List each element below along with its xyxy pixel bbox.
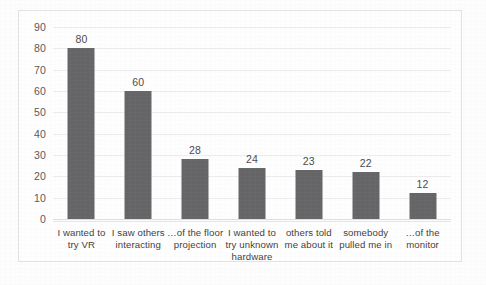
category-axis-rule [53,221,451,222]
x-axis-category-label: …of the monitor [394,227,451,251]
bar-slot: 12 [394,27,451,219]
y-axis-tick-label: 80 [34,42,46,54]
y-axis-tick-label: 40 [34,128,46,140]
bar[interactable] [182,159,209,219]
x-axis-category-label: others told me about it [280,227,337,251]
bar-slot: 24 [224,27,281,219]
bar-value-label: 23 [303,155,315,167]
y-axis-tick-label: 50 [34,106,46,118]
y-axis-tick-label: 10 [34,192,46,204]
bar[interactable] [238,168,265,219]
bar-slot: 80 [53,27,110,219]
bar-slot: 28 [167,27,224,219]
plot-area: 0102030405060708090 80602824232212 [53,27,451,219]
bar-value-label: 60 [132,76,144,88]
y-axis-tick-label: 0 [40,213,46,225]
bar-value-label: 22 [360,157,372,169]
bar-value-label: 80 [75,33,87,45]
bar[interactable] [295,170,322,219]
bar-value-label: 28 [189,144,201,156]
x-axis-category-label: I wanted to try unknown hardware [224,227,281,264]
scanned-page: 0102030405060708090 80602824232212 I wan… [0,0,486,285]
gridline [53,219,451,220]
bar-slot: 22 [337,27,394,219]
bar[interactable] [409,193,436,219]
bar-value-label: 24 [246,153,258,165]
bar-slot: 23 [280,27,337,219]
chart-frame: 0102030405060708090 80602824232212 I wan… [18,10,462,262]
bar[interactable] [352,172,379,219]
y-axis-tick-label: 90 [34,21,46,33]
bar-value-label: 12 [417,178,429,190]
x-axis-category-label: I wanted to try VR [53,227,110,251]
x-axis-category-label: …of the floor projection [167,227,224,251]
x-axis-category-labels: I wanted to try VRI saw others interacti… [53,223,451,263]
bar[interactable] [68,48,95,219]
y-axis-tick-label: 30 [34,149,46,161]
bar-series: 80602824232212 [53,27,451,219]
x-axis-category-label: somebody pulled me in [337,227,394,251]
y-axis-tick-label: 60 [34,85,46,97]
bar[interactable] [125,91,152,219]
x-axis-category-label: I saw others interacting [110,227,167,251]
y-axis-tick-label: 70 [34,64,46,76]
bar-slot: 60 [110,27,167,219]
y-axis-tick-label: 20 [34,170,46,182]
